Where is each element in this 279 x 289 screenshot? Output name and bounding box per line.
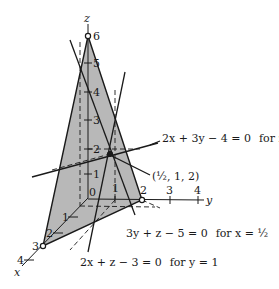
z-axis-label: z bbox=[83, 12, 90, 25]
z-tick-5: 5 bbox=[93, 57, 100, 70]
y-tick-4: 4 bbox=[194, 184, 201, 197]
x-axis-label: x bbox=[14, 266, 21, 279]
x-tick-2: 2 bbox=[46, 227, 53, 240]
y-axis-label: y bbox=[205, 194, 213, 207]
z-tick-4: 4 bbox=[93, 86, 100, 99]
x-tick-3: 3 bbox=[32, 240, 39, 253]
z-tick-2: 2 bbox=[93, 143, 100, 156]
x-tick-4: 4 bbox=[17, 254, 24, 267]
point-y2 bbox=[139, 197, 144, 202]
y-tick-1: 1 bbox=[112, 182, 119, 195]
equation-x-half: 3y + z − 5 = 0for x = ½ bbox=[126, 227, 268, 240]
equation-y1: 2x + z − 3 = 0for y = 1 bbox=[80, 256, 219, 269]
z-tick-6: 6 bbox=[93, 30, 100, 43]
3d-plane-diagram: z y x 6 5 4 3 2 1 0 1 2 3 4 1 2 3 4 (½, … bbox=[0, 0, 279, 289]
z-tick-3: 3 bbox=[93, 114, 100, 127]
intersection-point bbox=[107, 151, 112, 156]
y-tick-2: 2 bbox=[140, 184, 147, 197]
intersection-point-label: (½, 1, 2) bbox=[152, 170, 199, 183]
z-tick-1: 1 bbox=[93, 168, 100, 181]
equation-z2: 2x + 3y − 4 = 0for z = 2 bbox=[162, 132, 279, 145]
x-tick-1: 1 bbox=[62, 211, 69, 224]
origin-label: 0 bbox=[89, 186, 96, 199]
point-z6 bbox=[85, 33, 90, 38]
point-x3 bbox=[40, 243, 45, 248]
y-tick-3: 3 bbox=[166, 184, 173, 197]
